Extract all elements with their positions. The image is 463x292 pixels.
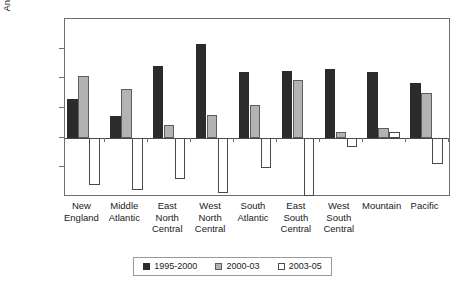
bar[interactable] [336,132,347,137]
bar[interactable] [410,83,421,138]
legend-item[interactable]: 1995-2000 [143,262,197,271]
bar[interactable] [367,72,378,138]
legend-item[interactable]: 2000-03 [215,262,259,271]
legend-swatch-icon [143,263,150,270]
x-axis-label: Mountain [360,200,403,212]
bar-group [239,19,272,195]
legend-label: 2003-05 [289,262,322,271]
legend-item[interactable]: 2003-05 [278,262,322,271]
bar[interactable] [325,69,336,138]
bar-group [282,19,315,195]
bar[interactable] [89,138,100,185]
category-tick [104,138,105,142]
bar-group [196,19,229,195]
x-axis-label: South Atlantic [232,200,275,223]
bar[interactable] [250,105,261,138]
bar[interactable] [282,71,293,138]
bar-group [153,19,186,195]
bar[interactable] [110,116,121,137]
bar[interactable] [293,80,304,137]
legend-label: 1995-2000 [154,262,197,271]
category-tick [319,138,320,142]
x-axis-label: West North Central [189,200,232,235]
bar-group [67,19,100,195]
bar[interactable] [261,138,272,168]
plot-area [64,18,450,196]
bar[interactable] [421,93,432,138]
category-tick [190,138,191,142]
bar[interactable] [389,132,400,138]
x-axis-label: New England [60,200,103,223]
bar[interactable] [164,125,175,137]
bar-group [410,19,443,195]
x-axis-label: Pacific [403,200,446,212]
x-axis-label: East North Central [146,200,189,235]
bar-group [325,19,358,195]
x-axis-label: West South Central [317,200,360,235]
legend-swatch-icon [278,263,285,270]
bar[interactable] [347,138,358,147]
x-axis-label: Middle Atlantic [103,200,146,223]
bar[interactable] [218,138,229,194]
bar-group [367,19,400,195]
category-tick [233,138,234,142]
bar[interactable] [132,138,143,191]
bar[interactable] [239,72,250,137]
bar[interactable] [207,115,218,137]
category-tick [147,138,148,142]
category-tick [448,138,449,142]
bar[interactable] [67,99,78,138]
bar[interactable] [432,138,443,164]
bar[interactable] [175,138,186,179]
bar[interactable] [378,128,389,137]
category-tick [405,138,406,142]
bar-group [110,19,143,195]
plot-inner [65,19,449,195]
x-axis-label: East South Central [274,200,317,235]
legend-swatch-icon [215,263,222,270]
legend-label: 2000-03 [226,262,259,271]
y-axis-title: Annualized percentage growth [0,0,14,36]
category-tick [362,138,363,142]
category-tick [276,138,277,142]
chart-legend: 1995-20002000-032003-05 [133,257,332,276]
x-axis-labels: New EnglandMiddle AtlanticEast North Cen… [64,200,450,246]
bar[interactable] [78,76,89,137]
bar[interactable] [196,44,207,138]
bar[interactable] [153,66,164,138]
bar[interactable] [121,89,132,137]
bar[interactable] [304,138,315,196]
